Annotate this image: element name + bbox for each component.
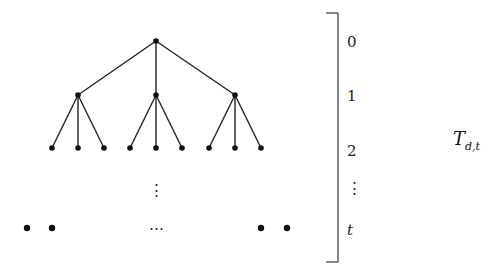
depth-label: t xyxy=(347,221,354,239)
level2-node xyxy=(101,145,107,151)
depth-label: 2 xyxy=(347,142,357,160)
tree-edge xyxy=(130,95,156,148)
tree-edge xyxy=(78,41,156,95)
level2-node xyxy=(206,145,212,151)
level2-node xyxy=(179,145,185,151)
level2-node xyxy=(232,145,238,151)
tree-edge xyxy=(52,95,78,148)
tree-edge xyxy=(209,95,235,148)
depth-t-node xyxy=(258,225,264,231)
horizontal-ellipsis: ⋯ xyxy=(149,219,164,237)
depth-t-node xyxy=(284,225,290,231)
level2-node xyxy=(49,145,55,151)
depth-t-node xyxy=(24,225,30,231)
tree-title: Td,t xyxy=(453,128,481,153)
root-node xyxy=(153,38,159,44)
level2-node xyxy=(258,145,264,151)
tree-edge xyxy=(235,95,261,148)
depth-t-node xyxy=(49,225,55,231)
level2-node xyxy=(153,145,159,151)
depth-label: 1 xyxy=(347,87,357,105)
tree-nodes xyxy=(24,38,290,231)
tree-edge xyxy=(156,41,235,95)
vertical-ellipsis: ⋮ xyxy=(149,181,164,199)
tree-diagram: ⋮ ⋯ 012⋮t Td,t xyxy=(0,0,499,275)
level2-node xyxy=(75,145,81,151)
depth-label: 0 xyxy=(347,33,357,51)
tree-edge xyxy=(156,95,182,148)
depth-labels: 012⋮t xyxy=(347,33,362,239)
level2-node xyxy=(127,145,133,151)
depth-label: ⋮ xyxy=(347,179,362,197)
depth-bracket xyxy=(326,13,338,262)
tree-edge xyxy=(78,95,104,148)
tree-title-subscript: d,t xyxy=(465,140,481,153)
level1-node xyxy=(75,92,81,98)
level1-node xyxy=(153,92,159,98)
level1-node xyxy=(232,92,238,98)
